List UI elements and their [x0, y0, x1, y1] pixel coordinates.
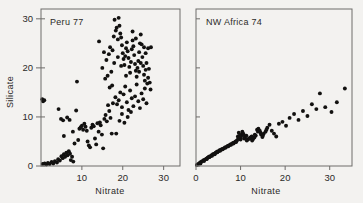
peru-yaxis-label: Silicate — [5, 76, 15, 108]
nwafrica-data-points — [195, 87, 347, 167]
peru-data-points — [40, 16, 153, 167]
y-tick-label: 10 — [22, 111, 33, 122]
chart-panel-nwafrica: 0102030 NW Africa 74 Nitrate — [190, 0, 363, 203]
nwafrica-panel-title: NW Africa 74 — [206, 17, 262, 27]
chart-panel-peru: 0102030102030 Peru 77 Nitrate Silicate — [0, 0, 190, 203]
nwafrica-tick-labels: 0102030 — [193, 172, 335, 183]
y-tick-label: 20 — [22, 62, 33, 73]
nwafrica-xaxis-label: Nitrate — [251, 186, 280, 196]
x-tick-label: 30 — [158, 172, 169, 183]
nwafrica-axes-frame — [196, 9, 352, 170]
peru-xaxis-label: Nitrate — [95, 186, 124, 196]
x-tick-label: 20 — [280, 172, 291, 183]
y-tick-label: 30 — [22, 13, 33, 24]
y-tick-label: 0 — [28, 160, 33, 171]
peru-panel-title: Peru 77 — [50, 17, 84, 27]
x-tick-label: 0 — [193, 172, 198, 183]
peru-axes-frame — [36, 9, 180, 170]
x-tick-label: 30 — [324, 172, 335, 183]
x-tick-label: 20 — [117, 172, 128, 183]
peru-tick-labels: 0102030102030 — [22, 13, 169, 183]
nwafrica-svg: 0102030 NW Africa 74 Nitrate — [190, 0, 363, 203]
figure-root: 0102030102030 Peru 77 Nitrate Silicate 0… — [0, 0, 363, 203]
x-tick-label: 10 — [77, 172, 88, 183]
x-tick-label: 10 — [235, 172, 246, 183]
peru-svg: 0102030102030 Peru 77 Nitrate Silicate — [0, 0, 190, 203]
